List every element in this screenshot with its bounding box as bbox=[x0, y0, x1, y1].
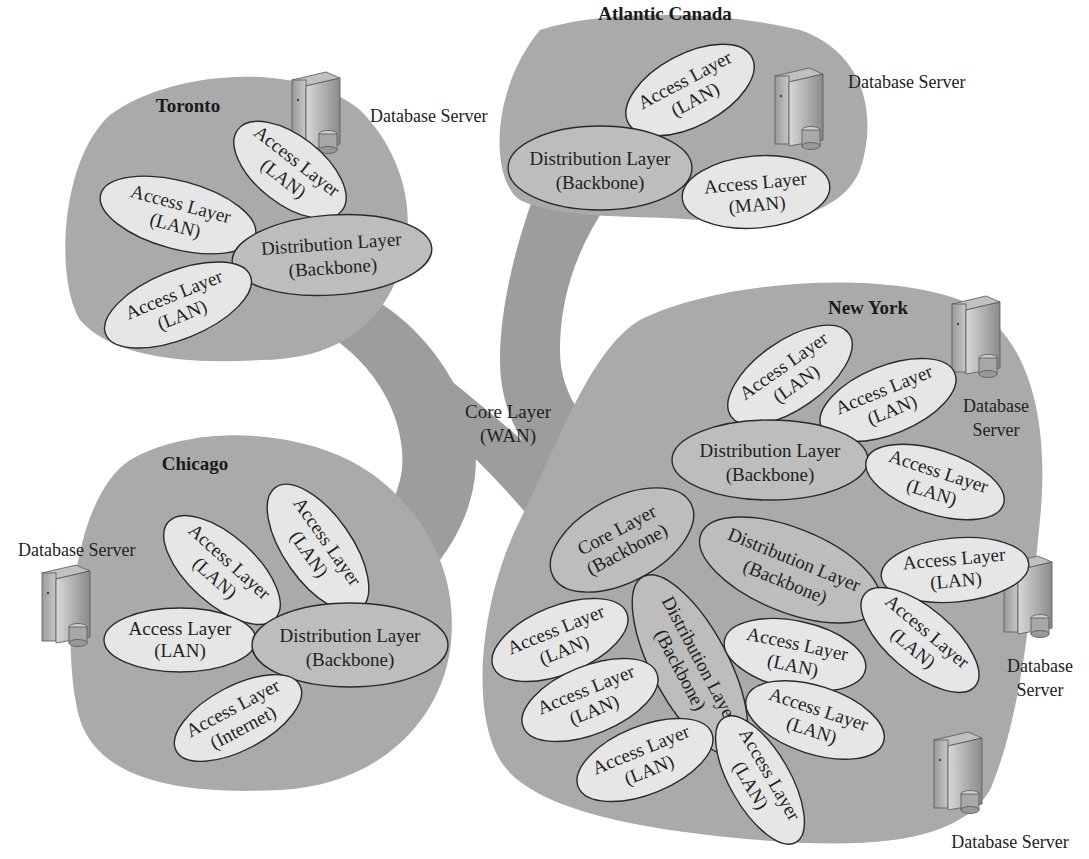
region-atlantic-canada: Atlantic Canada Database Server Access L… bbox=[500, 3, 966, 234]
database-server-icon bbox=[42, 565, 90, 647]
node-distribution-backbone[interactable]: Distribution Layer (Backbone) bbox=[672, 420, 868, 500]
region-title: New York bbox=[828, 297, 908, 318]
server-label: Server bbox=[1017, 680, 1064, 700]
svg-text:(Backbone): (Backbone) bbox=[556, 172, 645, 194]
region-newyork: New York Database Server Database Server… bbox=[481, 283, 1073, 858]
region-chicago: Chicago Database Server Access Layer (LA… bbox=[18, 435, 452, 791]
server-label: Server bbox=[973, 420, 1020, 440]
server-label: Database bbox=[1007, 656, 1073, 676]
svg-text:Distribution Layer: Distribution Layer bbox=[280, 625, 422, 646]
region-title: Atlantic Canada bbox=[598, 3, 732, 24]
server-label: Database bbox=[963, 396, 1029, 416]
svg-text:(Backbone): (Backbone) bbox=[726, 464, 815, 486]
database-server-icon bbox=[775, 68, 823, 150]
server-label: Database Server bbox=[370, 106, 487, 126]
node-access-lan[interactable]: Access Layer (LAN) bbox=[104, 608, 256, 672]
database-server-icon bbox=[952, 296, 1000, 378]
server-label: Database Server bbox=[951, 832, 1068, 852]
svg-text:Core Layer: Core Layer bbox=[465, 401, 552, 422]
node-distribution-backbone[interactable]: Distribution Layer (Backbone) bbox=[508, 126, 692, 210]
svg-text:(WAN): (WAN) bbox=[480, 425, 536, 447]
network-diagram: Toronto Database Server Access Layer (LA… bbox=[0, 0, 1089, 859]
region-title: Chicago bbox=[162, 453, 229, 474]
database-server-icon bbox=[934, 732, 982, 814]
svg-text:Distribution Layer: Distribution Layer bbox=[700, 440, 842, 461]
svg-text:Distribution Layer: Distribution Layer bbox=[530, 148, 672, 169]
server-label: Database Server bbox=[18, 540, 135, 560]
region-title: Toronto bbox=[156, 95, 220, 116]
server-label: Database Server bbox=[848, 72, 965, 92]
region-toronto: Toronto Database Server Access Layer (LA… bbox=[65, 72, 487, 366]
svg-text:(LAN): (LAN) bbox=[154, 640, 206, 662]
svg-text:Access Layer: Access Layer bbox=[129, 618, 233, 639]
svg-text:(Backbone): (Backbone) bbox=[306, 649, 395, 671]
